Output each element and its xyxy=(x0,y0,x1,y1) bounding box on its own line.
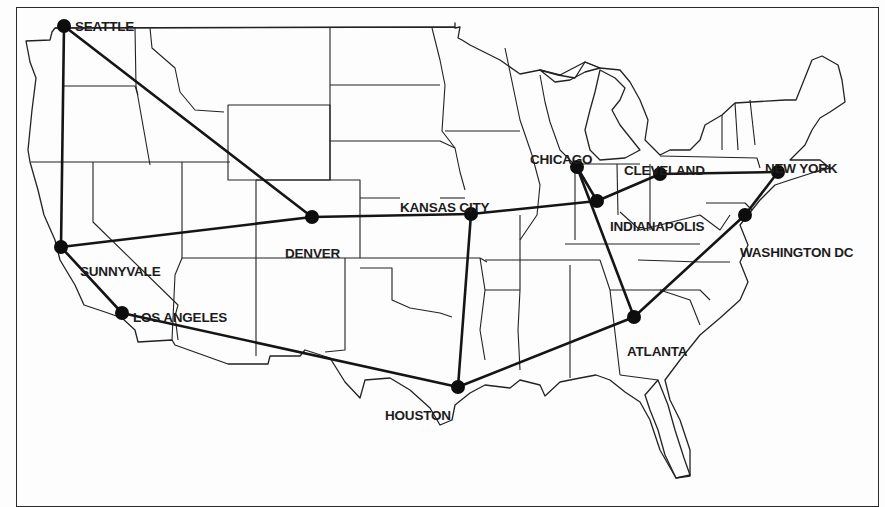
link-kansas-city-houston xyxy=(458,214,471,387)
node-denver xyxy=(305,210,319,224)
link-new-york-washington-dc xyxy=(745,172,778,215)
city-label-los-angeles: LOS ANGELES xyxy=(133,310,227,325)
node-indianapolis xyxy=(590,194,604,208)
node-washington-dc xyxy=(738,208,752,222)
city-label-cleveland: CLEVELAND xyxy=(624,163,705,178)
city-label-denver: DENVER xyxy=(285,246,341,261)
city-label-indianapolis: INDIANAPOLIS xyxy=(610,219,705,234)
city-label-sunnyvale: SUNNYVALE xyxy=(80,264,161,279)
node-houston xyxy=(451,380,465,394)
node-atlanta xyxy=(627,310,641,324)
city-label-washington-dc: WASHINGTON DC xyxy=(740,245,854,260)
node-los-angeles xyxy=(115,306,129,320)
link-seattle-sunnyvale xyxy=(61,26,64,247)
link-houston-atlanta xyxy=(458,317,634,387)
link-seattle-denver xyxy=(64,26,312,217)
node-sunnyvale xyxy=(54,240,68,254)
city-label-atlanta: ATLANTA xyxy=(627,344,688,359)
city-label-new-york: NEW YORK xyxy=(765,161,838,176)
link-sunnyvale-denver xyxy=(61,217,312,247)
link-sunnyvale-los-angeles xyxy=(61,247,122,313)
node-seattle xyxy=(57,19,71,33)
link-kansas-city-indianapolis xyxy=(471,201,597,214)
city-label-houston: HOUSTON xyxy=(385,408,451,423)
city-label-seattle: SEATTLE xyxy=(75,19,134,34)
city-label-kansas-city: KANSAS CITY xyxy=(400,200,490,215)
city-label-chicago: CHICAGO xyxy=(530,152,592,167)
